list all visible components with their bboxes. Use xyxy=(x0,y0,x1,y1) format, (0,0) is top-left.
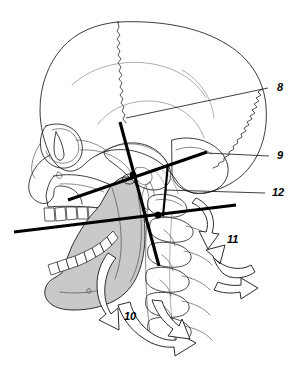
label-10: 10 xyxy=(124,310,137,322)
motion-arrow-right-lateral xyxy=(214,278,258,299)
cranium-group xyxy=(40,22,266,194)
parietal-faint-arc xyxy=(98,101,204,138)
leader-line-8 xyxy=(126,88,268,118)
cranial-vault-outline xyxy=(40,22,266,194)
lambdoid-suture xyxy=(213,89,262,168)
skull-cervical-spine-diagram: 8 9 12 11 10 xyxy=(0,0,296,367)
motion-arrow-down-upper xyxy=(192,198,219,249)
tooth-upper xyxy=(77,207,88,219)
mandible-group xyxy=(45,174,145,310)
temporal-line-arc xyxy=(72,62,206,98)
label-8: 8 xyxy=(277,81,284,93)
label-11: 11 xyxy=(227,233,238,245)
anatomical-figure: 8 9 12 11 10 xyxy=(0,0,296,367)
leader-lines-group xyxy=(126,88,269,193)
upper-rotation-center xyxy=(130,172,136,178)
zygomatic-arch xyxy=(80,150,132,175)
tooth-upper xyxy=(44,208,55,221)
mandible-outline-shaded xyxy=(45,177,145,310)
leader-line-9 xyxy=(206,153,269,156)
vertebra-c4 xyxy=(146,267,190,292)
lower-rotation-center xyxy=(155,212,161,218)
motion-arrow-up-right xyxy=(206,245,255,278)
tooth-upper xyxy=(55,207,66,221)
label-9: 9 xyxy=(277,149,284,161)
orbital-fissure xyxy=(54,132,64,160)
tooth-upper xyxy=(66,207,77,220)
label-12: 12 xyxy=(272,186,284,198)
